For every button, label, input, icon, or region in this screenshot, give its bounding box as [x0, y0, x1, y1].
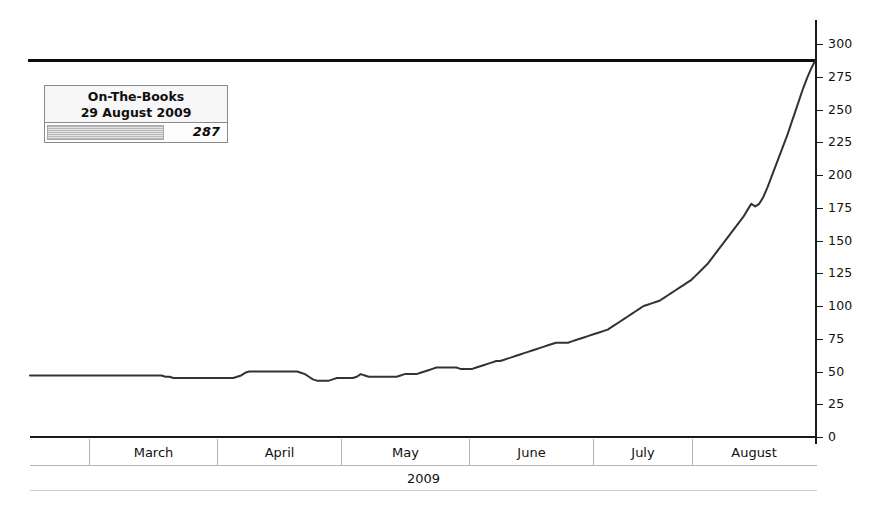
x-axis-month-cell	[30, 439, 90, 465]
y-tick-label: 75	[828, 333, 844, 346]
x-axis-month-cell: April	[218, 439, 342, 465]
y-tick-label: 300	[828, 38, 852, 51]
y-tick-label: 25	[828, 398, 844, 411]
y-tick-label: 250	[828, 104, 852, 117]
x-axis-year-label: 2009	[30, 466, 817, 491]
y-tick-label: 225	[828, 136, 852, 149]
y-tick-label: 275	[828, 71, 852, 84]
legend-color-swatch	[47, 125, 164, 140]
legend-title-line1: On-The-Books	[51, 89, 221, 105]
y-tick-label: 150	[828, 235, 852, 248]
x-axis-month-cell: May	[342, 439, 470, 465]
x-axis-table: MarchAprilMayJuneJulyAugust 2009	[30, 439, 817, 491]
y-tick-mark	[815, 241, 823, 242]
y-tick-mark	[815, 404, 823, 405]
legend-title-line2: 29 August 2009	[51, 105, 221, 121]
y-tick-mark	[815, 110, 823, 111]
y-tick-mark	[815, 372, 823, 373]
y-tick-label: 175	[828, 202, 852, 215]
y-tick-mark	[815, 142, 823, 143]
y-axis-line	[815, 20, 817, 444]
y-tick-label: 0	[828, 431, 836, 444]
y-tick-label: 100	[828, 300, 852, 313]
legend-value: 287	[164, 123, 227, 142]
legend-box: On-The-Books 29 August 2009 287	[44, 85, 228, 143]
y-tick-mark	[815, 77, 823, 78]
legend-value-row: 287	[45, 122, 227, 142]
y-tick-mark	[815, 437, 823, 438]
chart-root: 0255075100125150175200225250275300 On-Th…	[0, 0, 891, 518]
legend-title: On-The-Books 29 August 2009	[45, 86, 227, 122]
x-axis-month-row: MarchAprilMayJuneJulyAugust	[30, 439, 817, 466]
y-tick-mark	[815, 273, 823, 274]
x-axis-line	[30, 436, 817, 438]
y-tick-label: 50	[828, 366, 844, 379]
y-tick-label: 125	[828, 267, 852, 280]
y-tick-mark	[815, 208, 823, 209]
x-axis-month-cell: July	[594, 439, 693, 465]
y-tick-mark	[815, 306, 823, 307]
y-tick-label: 200	[828, 169, 852, 182]
x-axis-month-cell: August	[693, 439, 815, 465]
x-axis-month-cell: March	[90, 439, 218, 465]
x-axis-month-cell: June	[470, 439, 594, 465]
y-tick-mark	[815, 44, 823, 45]
y-tick-mark	[815, 175, 823, 176]
y-tick-mark	[815, 339, 823, 340]
